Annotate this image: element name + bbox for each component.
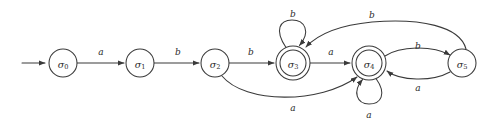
edge-label-s4-self: a <box>366 110 371 120</box>
transition-s2-s4[interactable]: a <box>222 76 357 113</box>
edge-path-s5-s4 <box>387 71 450 79</box>
edge-path-s4-self <box>357 79 382 105</box>
transition-s5-s4[interactable]: a <box>387 71 450 93</box>
edge-label-s3-s4: a <box>328 47 333 57</box>
state-s1[interactable]: σ1 <box>126 49 154 77</box>
state-s4[interactable]: σ4 <box>352 46 386 80</box>
edge-label-s0-s1: a <box>98 47 103 57</box>
edge-label-s5-s4: a <box>415 83 420 93</box>
automaton-diagram: a b b a b a a <box>0 0 489 123</box>
transition-s2-s3[interactable]: b <box>229 47 274 64</box>
edge-label-s2-s3: b <box>248 47 254 57</box>
edge-label-s5-s3: b <box>369 10 375 20</box>
edge-label-s3-self: b <box>290 9 296 19</box>
state-s2[interactable]: σ2 <box>201 49 229 77</box>
edge-path-s3-self <box>279 20 305 48</box>
transition-s1-s2[interactable]: b <box>154 47 199 64</box>
state-s5[interactable]: σ5 <box>448 49 476 77</box>
transition-s4-s5[interactable]: b <box>385 41 450 57</box>
state-s3[interactable]: σ3 <box>276 46 310 80</box>
edge-label-s2-s4: a <box>290 103 295 113</box>
edge-path-s5-s3 <box>306 21 466 49</box>
automaton-canvas: a b b a b a a <box>0 0 489 123</box>
transition-s4-self[interactable]: a <box>357 79 382 120</box>
transition-s3-s4[interactable]: a <box>310 47 350 64</box>
edge-label-s1-s2: b <box>175 47 181 57</box>
transition-s3-self[interactable]: b <box>279 9 305 48</box>
state-s0[interactable]: σ0 <box>49 49 77 77</box>
transition-s0-s1[interactable]: a <box>77 47 124 64</box>
edge-label-s4-s5: b <box>415 41 421 51</box>
transition-s5-s3[interactable]: b <box>306 10 466 50</box>
